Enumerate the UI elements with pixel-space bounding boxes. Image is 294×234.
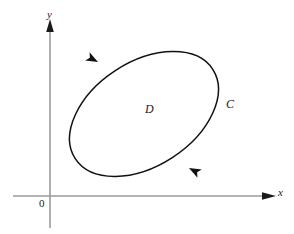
x-axis bbox=[13, 192, 276, 200]
curve-c bbox=[47, 26, 241, 203]
curve-c-ellipse bbox=[47, 26, 241, 203]
origin-label: 0 bbox=[39, 198, 45, 209]
upper-left-direction-arrow bbox=[85, 52, 100, 66]
x-axis-arrowhead bbox=[262, 192, 276, 200]
region-d-label: D bbox=[145, 103, 154, 115]
y-axis-label: y bbox=[47, 9, 52, 20]
lower-right-direction-arrow bbox=[187, 164, 202, 178]
y-axis-arrowhead bbox=[46, 19, 54, 32]
x-axis-label: x bbox=[278, 187, 283, 198]
figure-canvas: y x 0 D C bbox=[0, 0, 294, 234]
curve-c-label: C bbox=[226, 98, 234, 110]
